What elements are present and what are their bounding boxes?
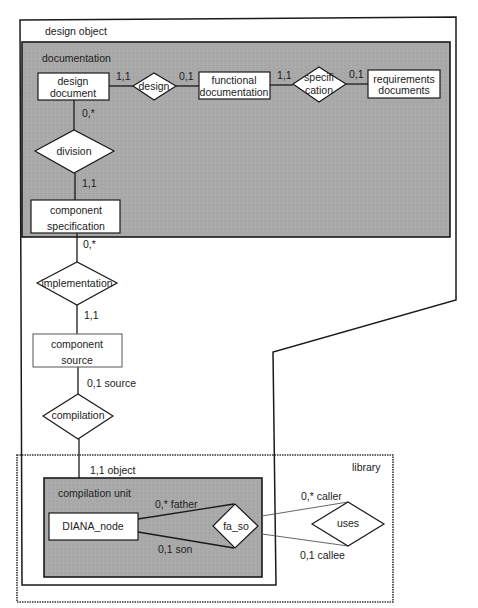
card-callee: 0,1 callee — [300, 549, 345, 561]
relationship-uses: uses — [312, 502, 384, 546]
entity-functional-documentation: functional documentation — [199, 72, 270, 99]
design-object-label: design object — [45, 25, 107, 37]
card-father: 0,* father — [155, 498, 198, 510]
relationship-implementation: implementation — [37, 262, 117, 305]
card-spec-requirements: 0,1 — [349, 68, 364, 80]
card-design-functional: 0,1 — [179, 70, 194, 82]
documentation-label: documentation — [42, 52, 111, 64]
svg-text:functional: functional — [212, 74, 257, 86]
svg-text:source: source — [61, 354, 93, 366]
svg-text:component: component — [51, 338, 103, 350]
svg-text:component: component — [50, 204, 102, 216]
card-implementation-component-source: 1,1 — [84, 309, 99, 321]
svg-text:cation: cation — [305, 84, 333, 96]
svg-text:specifi: specifi — [304, 71, 334, 83]
card-design-doc-design: 1,1 — [116, 70, 131, 82]
svg-text:DIANA_node: DIANA_node — [62, 520, 123, 532]
svg-text:design: design — [139, 80, 170, 92]
svg-text:documentation: documentation — [200, 86, 269, 98]
svg-text:uses: uses — [337, 517, 359, 529]
svg-text:documents: documents — [378, 84, 429, 96]
relationship-compilation: compilation — [43, 394, 113, 439]
svg-text:design: design — [58, 75, 89, 87]
er-diagram: library design object documentation comp… — [0, 0, 478, 608]
entity-design-document: design document — [38, 73, 109, 100]
entity-component-source: component source — [33, 334, 122, 367]
card-design-doc-division: 0,* — [82, 107, 95, 119]
card-component-spec-implementation: 0,* — [83, 238, 96, 250]
entity-diana-node: DIANA_node — [49, 513, 138, 540]
card-son: 0,1 son — [158, 543, 193, 555]
svg-text:fa_so: fa_so — [223, 520, 249, 532]
library-label: library — [352, 461, 381, 473]
card-compilation-compilation-unit: 1,1 object — [90, 464, 136, 476]
card-functional-spec: 1,1 — [277, 69, 292, 81]
card-division-component-spec: 1,1 — [82, 177, 97, 189]
svg-text:compilation: compilation — [51, 409, 104, 421]
compilation-unit-label: compilation unit — [58, 487, 131, 499]
card-component-source-compilation: 0,1 source — [87, 377, 136, 389]
entity-requirements-documents: requirements documents — [368, 70, 440, 98]
entity-component-specification: component specification — [31, 200, 120, 233]
svg-text:implementation: implementation — [41, 277, 112, 289]
svg-text:document: document — [50, 87, 96, 99]
svg-text:specification: specification — [47, 220, 105, 232]
card-caller: 0,* caller — [301, 490, 342, 502]
svg-text:division: division — [56, 145, 91, 157]
